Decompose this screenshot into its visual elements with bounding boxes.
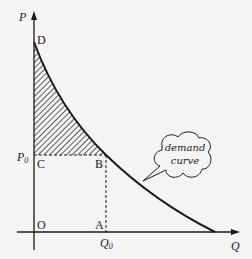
point-c-label: C [37,158,45,170]
point-a-label: A [95,219,104,231]
x-axis-label: Q [231,240,240,252]
point-d-label: D [37,34,46,46]
consumer-surplus-area [34,42,106,155]
price-label-sub: 0 [24,156,28,165]
callout-text: demand curve [160,141,210,167]
demand-curve-diagram: P D P0 C B O A Q0 Q demand curve [0,0,252,259]
point-b-label: B [95,158,103,170]
quantity-label-main: Q [100,236,109,250]
quantity-label-sub: 0 [109,242,113,251]
quantity-q0-label: Q0 [100,237,113,249]
callout-line-1: demand [160,141,210,154]
x-axis-arrow-icon [231,229,240,235]
y-axis-arrow-icon [31,11,37,20]
y-axis-label: P [19,11,26,23]
point-o-label: O [37,219,46,231]
price-p0-label: P0 [17,151,28,163]
callout-line-2: curve [160,154,210,167]
